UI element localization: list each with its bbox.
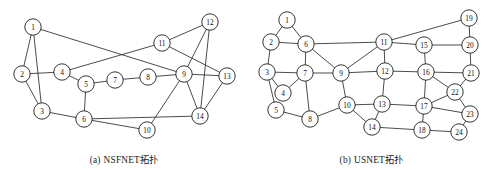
node-label: 7	[113, 76, 117, 85]
graph-node[interactable]: 1	[279, 12, 295, 28]
graph-edge	[268, 50, 270, 65]
graph-node[interactable]: 2	[14, 66, 30, 82]
graph-node[interactable]: 10	[339, 97, 355, 113]
caption-usnet: (b)USNET拓扑	[248, 152, 495, 166]
node-label: 4	[281, 89, 285, 98]
graph-edge	[275, 72, 297, 73]
graph-edge	[355, 104, 374, 105]
node-label: 5	[274, 106, 278, 115]
graph-edge	[26, 81, 39, 104]
node-label: 17	[420, 102, 428, 111]
node-label: 4	[60, 68, 64, 77]
graph-node[interactable]: 15	[416, 37, 432, 53]
graph-node[interactable]: 8	[140, 69, 156, 85]
graph-edge	[312, 49, 335, 68]
node-label: 1	[285, 16, 289, 25]
graph-edge	[423, 114, 424, 122]
graph-edge	[204, 82, 222, 109]
graph-edge	[289, 78, 299, 88]
graph-node[interactable]: 18	[414, 122, 430, 138]
graph-edge	[69, 45, 154, 70]
graph-node[interactable]: 3	[259, 64, 275, 80]
graph-node[interactable]: 24	[451, 124, 467, 140]
node-label: 12	[381, 67, 389, 76]
node-label: 9	[182, 70, 186, 79]
graph-node[interactable]: 11	[376, 34, 392, 50]
graph-node[interactable]: 20	[462, 37, 478, 53]
graph-edge	[349, 71, 377, 72]
graph-edge	[92, 120, 140, 128]
node-label: 15	[420, 41, 428, 50]
caption-index-b: (b)	[340, 155, 351, 165]
graph-node[interactable]: 2	[263, 34, 279, 50]
graph-node[interactable]: 14	[192, 108, 208, 124]
node-label: 6	[304, 40, 308, 49]
node-label: 5	[84, 80, 88, 89]
node-label: 3	[265, 68, 269, 77]
graph-node[interactable]: 9	[333, 65, 349, 81]
figure-root: 1234567891011121314 (a)NSFNET拓扑 12345678…	[0, 0, 495, 170]
graph-node[interactable]: 12	[377, 63, 393, 79]
node-label: 12	[206, 18, 214, 27]
graph-node[interactable]: 13	[219, 68, 235, 84]
usnet-topology-graph: 123456789101112131415161718192021222324	[248, 0, 495, 148]
graph-edge	[69, 75, 79, 80]
graph-edge	[353, 110, 366, 122]
graph-edge	[123, 78, 140, 80]
graph-node[interactable]: 8	[302, 111, 318, 127]
graph-node[interactable]: 1	[25, 19, 41, 35]
graph-edge	[187, 29, 206, 67]
graph-edge	[424, 80, 425, 98]
graph-node[interactable]: 19	[461, 10, 477, 26]
graph-edge	[276, 26, 283, 35]
graph-edge	[156, 75, 176, 77]
graph-node[interactable]: 23	[462, 106, 478, 122]
graph-edge	[347, 47, 377, 69]
node-label: 8	[308, 115, 312, 124]
node-label: 9	[339, 69, 343, 78]
graph-node[interactable]: 22	[447, 84, 463, 100]
graph-edge	[425, 53, 426, 64]
graph-edge	[314, 42, 376, 44]
node-label: 2	[269, 38, 273, 47]
node-label: 13	[378, 100, 386, 109]
graph-node[interactable]: 10	[139, 122, 155, 138]
graph-edge	[430, 130, 451, 131]
node-layer: 123456789101112131415161718192021222324	[259, 10, 479, 140]
graph-edge	[342, 81, 345, 98]
graph-edge	[284, 112, 303, 117]
graph-edge	[432, 107, 463, 112]
graph-node[interactable]: 4	[275, 85, 291, 101]
graph-node[interactable]: 6	[76, 111, 92, 127]
graph-node[interactable]: 5	[78, 76, 94, 92]
graph-node[interactable]: 21	[463, 65, 479, 81]
caption-text-b: USNET拓扑	[354, 155, 403, 165]
graph-edge	[390, 104, 416, 105]
graph-node[interactable]: 11	[154, 35, 170, 51]
graph-node[interactable]: 12	[202, 14, 218, 30]
graph-node[interactable]: 14	[364, 119, 380, 135]
graph-edge	[459, 98, 465, 107]
graph-edge	[431, 95, 448, 103]
graph-node[interactable]: 4	[54, 64, 70, 80]
graph-node[interactable]: 9	[176, 66, 192, 82]
graph-edge	[272, 78, 279, 87]
graph-edge	[201, 30, 209, 108]
node-label: 11	[380, 38, 387, 47]
graph-node[interactable]: 5	[268, 102, 284, 118]
graph-node[interactable]: 16	[418, 64, 434, 80]
graph-node[interactable]: 7	[297, 65, 313, 81]
node-label: 23	[466, 110, 474, 119]
graph-edge	[34, 35, 41, 103]
graph-node[interactable]: 7	[107, 72, 123, 88]
graph-node[interactable]: 3	[34, 103, 50, 119]
node-label: 6	[82, 115, 86, 124]
node-label: 1	[31, 23, 35, 32]
graph-node[interactable]: 6	[298, 36, 314, 52]
node-label: 2	[20, 70, 24, 79]
graph-node[interactable]: 17	[416, 98, 432, 114]
node-label: 18	[418, 126, 426, 135]
graph-edge	[392, 43, 416, 45]
graph-edge	[380, 127, 414, 129]
graph-node[interactable]: 13	[374, 96, 390, 112]
